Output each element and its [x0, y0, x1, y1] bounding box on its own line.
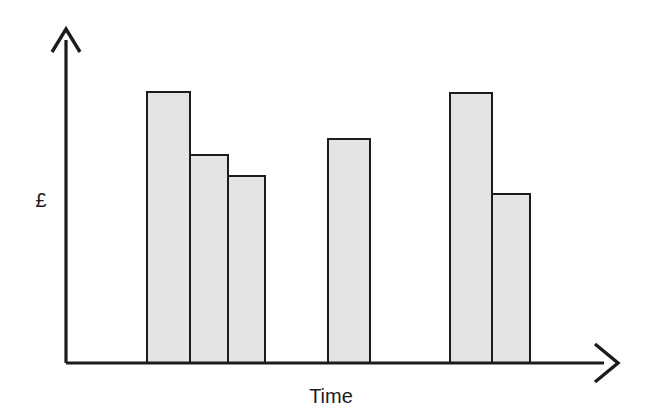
y-axis-label: £	[35, 189, 46, 211]
bar-4	[328, 139, 370, 363]
bar-3	[228, 176, 265, 363]
bar-1	[147, 92, 190, 363]
x-axis-label: Time	[309, 385, 353, 407]
chart-canvas: £ Time	[0, 0, 650, 417]
bar-2	[190, 155, 228, 363]
bar-5	[450, 93, 492, 363]
bars-group	[147, 92, 530, 363]
bar-chart-figure: £ Time	[0, 0, 650, 417]
bar-6	[492, 194, 530, 363]
